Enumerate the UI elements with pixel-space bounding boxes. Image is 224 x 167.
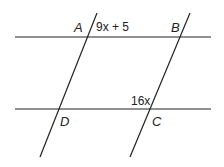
point-a-label: A	[73, 20, 83, 35]
point-d-label: D	[60, 114, 69, 129]
left-transversal	[40, 13, 97, 157]
angle-label-bottom: 16x	[131, 94, 150, 108]
right-transversal	[130, 13, 190, 157]
angle-label-top: 9x + 5	[96, 20, 129, 34]
point-c-label: C	[152, 114, 162, 129]
parallel-lines-diagram: A 9x + 5 B 16x D C	[0, 0, 224, 167]
point-b-label: B	[171, 20, 180, 35]
